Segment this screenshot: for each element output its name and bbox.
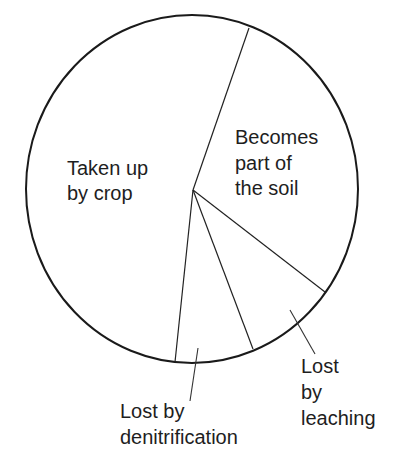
- label-leaching-line-1: Lost: [301, 355, 339, 377]
- slice-label-leaching: Lost by leaching: [301, 355, 376, 429]
- label-crop-line-1: Taken up: [67, 157, 148, 179]
- label-crop-line-2: by crop: [67, 182, 133, 204]
- label-soil-line-3: the soil: [235, 177, 298, 199]
- label-soil-line-2: part of: [235, 152, 292, 174]
- label-leaching-line-2: by: [301, 381, 322, 403]
- label-leaching-line-3: leaching: [301, 407, 376, 429]
- pie-chart: Taken up by crop Becomes part of the soi…: [0, 0, 400, 472]
- label-denitrification-line-1: Lost by: [120, 400, 184, 422]
- label-soil-line-1: Becomes: [235, 126, 318, 148]
- slice-label-denitrification: Lost by denitrification: [120, 400, 238, 448]
- label-denitrification-line-2: denitrification: [120, 426, 238, 448]
